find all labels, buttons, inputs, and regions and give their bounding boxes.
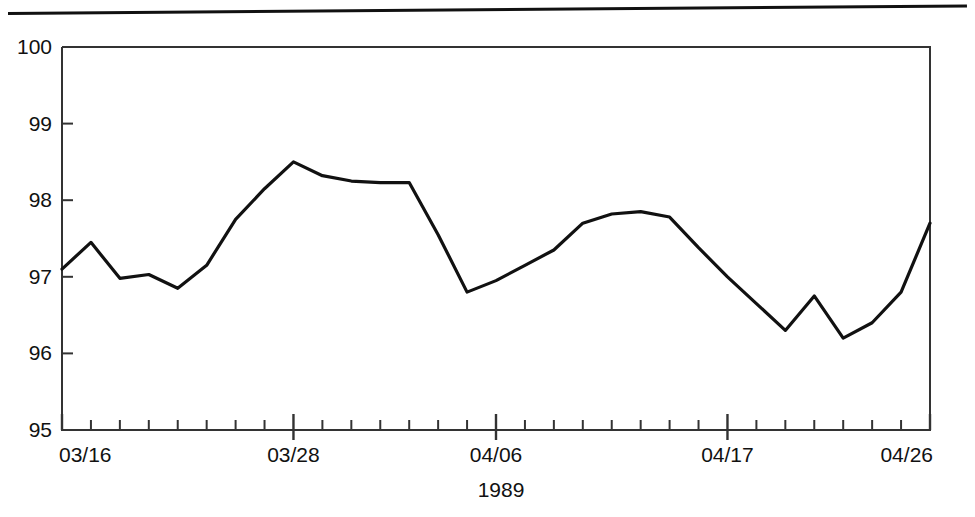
x-tick-label: 04/06 — [470, 443, 523, 466]
y-tick-label: 97 — [29, 265, 52, 288]
x-tick-label: 03/28 — [267, 443, 320, 466]
y-tick-label: 100 — [17, 35, 52, 58]
x-tick-label: 04/26 — [880, 443, 933, 466]
y-axis-ticks — [62, 124, 73, 430]
y-tick-label: 95 — [29, 418, 52, 441]
x-tick-label: 03/16 — [59, 443, 112, 466]
y-axis-tick-labels: 9596979899100 — [17, 35, 52, 441]
y-tick-label: 98 — [29, 188, 52, 211]
y-tick-label: 96 — [29, 341, 52, 364]
data-series-index — [62, 162, 930, 338]
x-axis-tick-labels: 03/1603/2804/0604/1704/26 — [59, 443, 933, 466]
line-chart: 9596979899100 03/1603/2804/0604/1704/26 … — [0, 0, 975, 517]
x-axis-title: 1989 — [478, 478, 525, 501]
plot-frame — [62, 47, 930, 430]
x-tick-label: 04/17 — [701, 443, 754, 466]
x-axis-ticks — [62, 414, 930, 440]
y-tick-label: 99 — [29, 112, 52, 135]
chart-figure: 9596979899100 03/1603/2804/0604/1704/26 … — [0, 0, 975, 517]
